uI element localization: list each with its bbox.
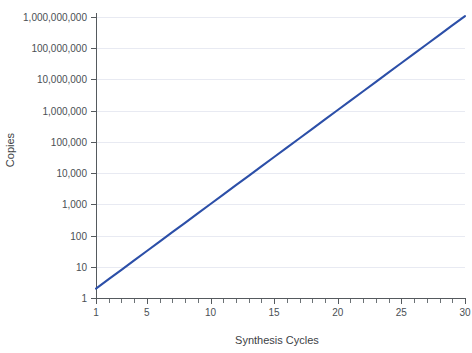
x-tick-label: 25 — [396, 307, 408, 318]
x-tick-label: 5 — [144, 307, 150, 318]
y-tick-label: 10,000 — [56, 168, 87, 179]
x-tick-label: 10 — [205, 307, 217, 318]
y-tick-label: 100,000,000 — [31, 43, 87, 54]
x-tick-label: 1 — [93, 307, 99, 318]
semilog-line-chart: 1101001,00010,000100,0001,000,00010,000,… — [0, 0, 472, 353]
y-tick-label: 1 — [81, 293, 87, 304]
x-tick-label: 15 — [269, 307, 281, 318]
x-tick-label: 20 — [332, 307, 344, 318]
y-tick-label: 1,000,000 — [43, 106, 88, 117]
chart-container: 1101001,00010,000100,0001,000,00010,000,… — [0, 0, 472, 353]
y-tick-label: 100 — [70, 231, 87, 242]
y-tick-label: 100,000 — [51, 137, 88, 148]
y-tick-label: 10,000,000 — [37, 74, 87, 85]
x-axis-title: Synthesis Cycles — [235, 334, 319, 346]
y-tick-label: 10 — [76, 262, 88, 273]
y-axis-title: Copies — [4, 132, 16, 167]
x-tick-label: 30 — [459, 307, 471, 318]
y-tick-label: 1,000 — [62, 199, 87, 210]
y-tick-label: 1,000,000,000 — [23, 12, 87, 23]
